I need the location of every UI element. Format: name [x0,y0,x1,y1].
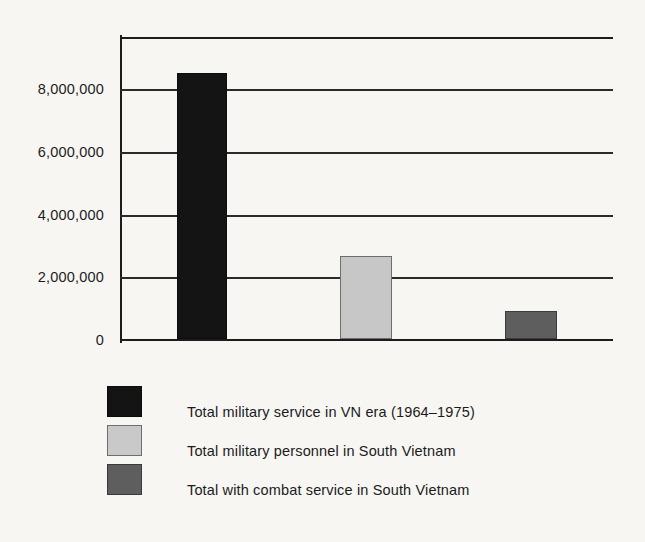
legend-item-total-combat-service: Total with combat service in South Vietn… [107,464,577,503]
legend-label-total-military-service: Total military service in VN era (1964–1… [187,404,475,420]
y-axis-line [120,35,122,343]
legend-swatch-icon-dark [107,386,142,417]
chart-plot-region: 8,000,000 6,000,000 4,000,000 2,000,000 … [0,0,645,365]
plot-area [120,37,613,341]
legend-item-total-personnel-south-vietnam: Total military personnel in South Vietna… [107,425,577,464]
y-axis-tick-label-8000000: 8,000,000 [8,81,104,97]
legend-label-total-personnel-south-vietnam: Total military personnel in South Vietna… [187,443,456,459]
legend-swatch-icon-light [107,425,142,456]
x-axis-baseline [120,339,613,341]
bar-chart-figure: 8,000,000 6,000,000 4,000,000 2,000,000 … [0,0,645,542]
y-axis-tick-label-2000000: 2,000,000 [8,269,104,285]
bar-total-combat-service [505,311,557,339]
y-axis-tick-label-4000000: 4,000,000 [8,207,104,223]
legend-label-total-combat-service: Total with combat service in South Vietn… [187,482,469,498]
y-axis-tick-label-6000000: 6,000,000 [8,144,104,160]
chart-legend: Total military service in VN era (1964–1… [107,386,577,503]
plot-top-border [120,37,613,39]
bar-total-military-service [177,73,227,339]
legend-item-total-military-service: Total military service in VN era (1964–1… [107,386,577,425]
bar-total-personnel-south-vietnam [340,256,392,339]
legend-swatch-icon-mid [107,464,142,495]
y-axis-tick-label-0: 0 [8,332,104,348]
